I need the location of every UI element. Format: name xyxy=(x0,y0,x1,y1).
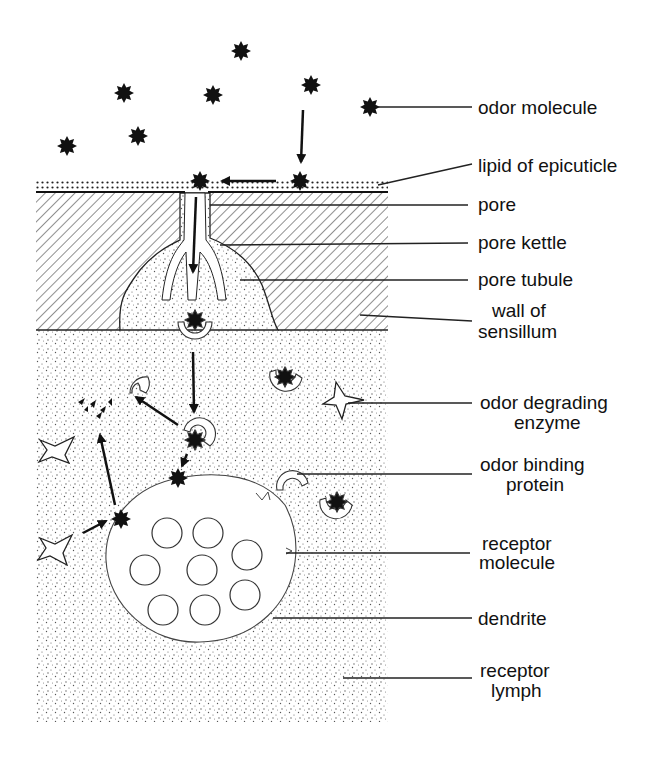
label-dendrite: dendrite xyxy=(478,608,547,629)
lipid-layer xyxy=(36,180,388,192)
label-receptor-molecule-line2: molecule xyxy=(479,552,555,573)
label-odor-degrading-enzyme-line1: odor degrading xyxy=(480,392,608,413)
odor-molecules xyxy=(57,41,380,191)
label-wall-of-sensillum-line2: sensillum xyxy=(478,321,557,342)
labels: odor molecule lipid of epicuticle pore p… xyxy=(478,97,617,701)
label-pore-tubule: pore tubule xyxy=(478,269,573,290)
sensillum-diagram: odor molecule lipid of epicuticle pore p… xyxy=(0,0,664,766)
label-odor-molecule: odor molecule xyxy=(478,97,597,118)
label-receptor-molecule-line1: receptor xyxy=(482,533,552,554)
label-receptor-lymph-line2: lymph xyxy=(491,680,542,701)
label-odor-binding-protein-line2: protein xyxy=(506,474,564,495)
label-lipid-of-epicuticle: lipid of epicuticle xyxy=(478,155,617,176)
label-odor-binding-protein-line1: odor binding xyxy=(480,454,585,475)
label-odor-degrading-enzyme-line2: enzyme xyxy=(514,412,581,433)
label-pore: pore xyxy=(478,194,516,215)
label-receptor-lymph-line1: receptor xyxy=(480,660,550,681)
sensillum-wall xyxy=(36,193,388,330)
label-wall-of-sensillum-line1: wall of xyxy=(491,300,547,321)
label-pore-kettle: pore kettle xyxy=(478,232,567,253)
